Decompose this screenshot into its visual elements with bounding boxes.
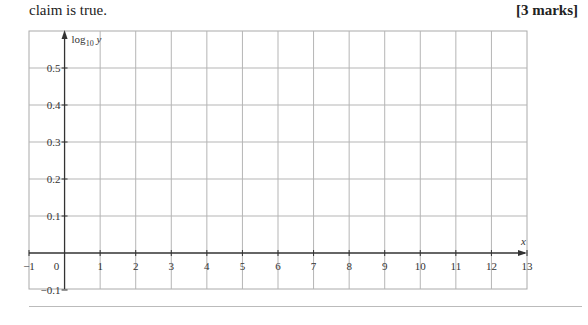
y-tick-label: −0.1 xyxy=(41,284,61,296)
answer-line xyxy=(29,306,582,307)
x-tick-label: 11 xyxy=(451,260,462,272)
x-tick-label: 5 xyxy=(240,260,246,272)
y-tick-label: 0.3 xyxy=(47,136,61,148)
x-tick-label: 7 xyxy=(311,260,317,272)
x-axis-label: x xyxy=(520,235,526,247)
x-tick-label: −1 xyxy=(23,260,35,272)
x-axis-arrow-icon xyxy=(518,250,527,256)
y-tick-label: 0.5 xyxy=(47,62,61,74)
x-tick-label: 0 xyxy=(54,260,60,272)
x-tick-label: 12 xyxy=(486,260,497,272)
y-axis-label: log10 y xyxy=(72,33,102,48)
x-tick-label: 2 xyxy=(133,260,139,272)
x-tick-label: 1 xyxy=(97,260,103,272)
x-tick-label: 13 xyxy=(522,260,534,272)
x-tick-label: 6 xyxy=(275,260,281,272)
x-tick-label: 8 xyxy=(346,260,352,272)
graph-grid[interactable]: −1012345678910111213−0.10.10.20.30.40.5l… xyxy=(0,0,588,325)
x-tick-label: 3 xyxy=(169,260,175,272)
y-tick-label: 0.2 xyxy=(47,173,61,185)
x-tick-label: 9 xyxy=(382,260,388,272)
y-tick-label: 0.4 xyxy=(47,99,61,111)
x-tick-label: 10 xyxy=(415,260,427,272)
y-tick-label: 0.1 xyxy=(47,210,61,222)
x-tick-label: 4 xyxy=(204,260,210,272)
